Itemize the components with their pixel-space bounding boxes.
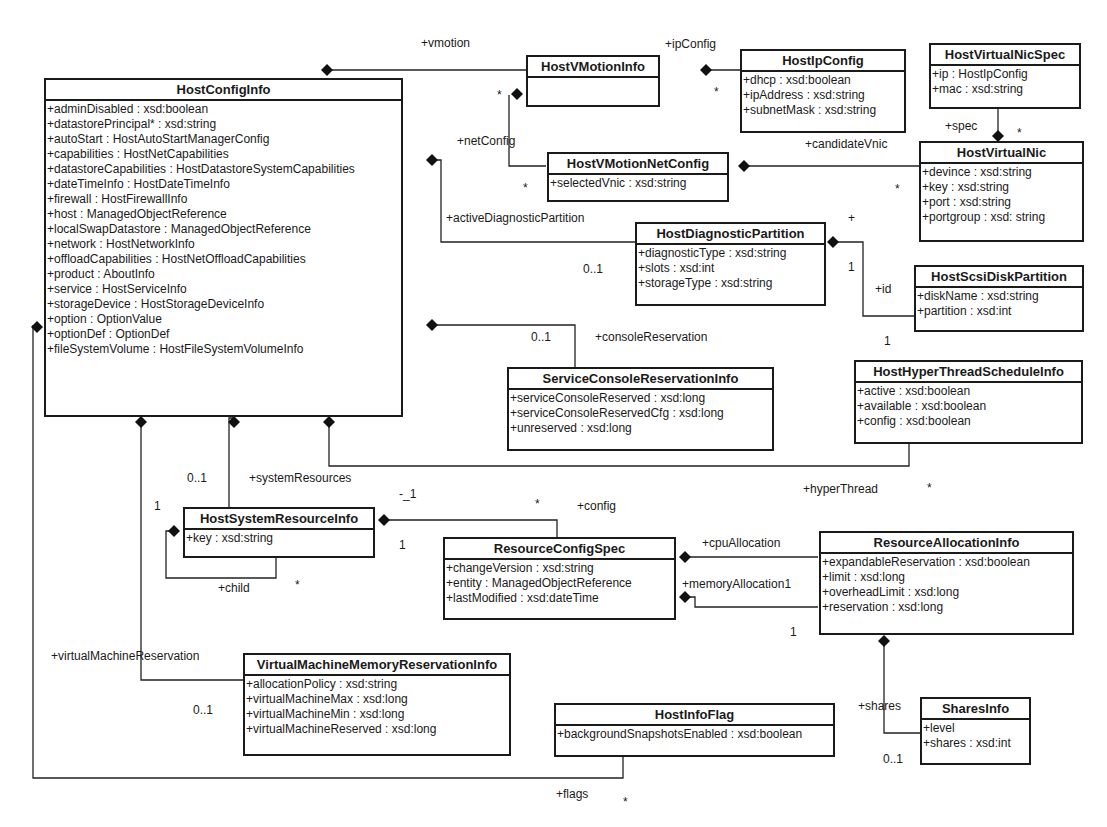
attribute: +dateTimeInfo : HostDateTimeInfo	[47, 177, 399, 192]
attribute: +diagnosticType : xsd:string	[638, 246, 822, 261]
attribute: +key : xsd:string	[186, 531, 371, 546]
class-service-console-reservation-info: ServiceConsoleReservationInfo +serviceCo…	[507, 367, 774, 451]
attribute: +option : OptionValue	[47, 312, 399, 327]
multiplicity-label: *	[895, 182, 900, 196]
attribute: +limit : xsd:long	[822, 570, 1070, 585]
attribute: +backgroundSnapshotsEnabled : xsd:boolea…	[557, 727, 831, 742]
multiplicity-label: *	[535, 497, 540, 511]
class-host-system-resource-info: HostSystemResourceInfo +key : xsd:string	[183, 507, 375, 558]
attribute-list: +level +shares : xsd:int	[922, 720, 1029, 752]
attribute: +virtualMachineReserved : xsd:long	[246, 722, 507, 737]
attribute-list: +active : xsd:boolean +available : xsd:b…	[856, 383, 1081, 430]
multiplicity-label: *	[927, 481, 932, 495]
multiplicity-label: *	[497, 88, 502, 102]
attribute: +reservation : xsd:long	[822, 600, 1070, 615]
attribute: +datastoreCapabilities : HostDatastoreSy…	[47, 162, 399, 177]
attribute: +storageDevice : HostStorageDeviceInfo	[47, 297, 399, 312]
attribute: +available : xsd:boolean	[857, 399, 1079, 414]
multiplicity-label: 0..1	[193, 703, 213, 717]
class-resource-allocation-info: ResourceAllocationInfo +expandableReserv…	[819, 531, 1074, 635]
class-name: HostScsiDiskPartition	[916, 267, 1082, 288]
attribute: +service : HostServiceInfo	[47, 282, 399, 297]
multiplicity-label: 1	[790, 625, 797, 639]
role-label-virtual-machine-reservation: +virtualMachineReservation	[51, 649, 199, 663]
attribute-list: +serviceConsoleReserved : xsd:long +serv…	[509, 390, 772, 437]
multiplicity-label: 1	[884, 334, 891, 348]
attribute: +datastorePrincipal* : xsd:string	[47, 117, 399, 132]
attribute: +mac : xsd:string	[932, 82, 1077, 97]
class-host-virtual-nic: HostVirtualNic +devince : xsd:string +ke…	[919, 141, 1084, 242]
class-host-config-info: HostConfigInfo +adminDisabled : xsd:bool…	[44, 78, 403, 417]
attribute: +devince : xsd:string	[922, 165, 1080, 180]
attribute: +allocationPolicy : xsd:string	[246, 677, 507, 692]
role-label-console-reservation: +consoleReservation	[595, 330, 707, 344]
attribute: +level	[923, 721, 1027, 736]
role-label-memory-allocation: +memoryAllocation1	[682, 577, 791, 591]
attribute: +expandableReservation : xsd:boolean	[822, 555, 1070, 570]
multiplicity-label: 1	[154, 499, 161, 513]
class-name: HostSystemResourceInfo	[185, 509, 373, 530]
class-host-diagnostic-partition: HostDiagnosticPartition +diagnosticType …	[635, 222, 826, 306]
role-label-vmotion: +vmotion	[421, 36, 470, 50]
attribute-list: +selectedVnic : xsd:string	[549, 175, 727, 192]
attribute: +adminDisabled : xsd:boolean	[47, 102, 399, 117]
attribute: +dhcp : xsd:boolean	[743, 73, 902, 88]
attribute: +config : xsd:boolean	[857, 414, 1079, 429]
attribute: +partition : xsd:int	[917, 304, 1080, 319]
multiplicity-label: 0..1	[583, 262, 603, 276]
class-name: HostConfigInfo	[46, 80, 401, 101]
class-host-info-flag: HostInfoFlag +backgroundSnapshotsEnabled…	[554, 703, 835, 757]
attribute: +fileSystemVolume : HostFileSystemVolume…	[47, 342, 399, 357]
class-name: ResourceAllocationInfo	[821, 533, 1072, 554]
multiplicity-label: 0..1	[883, 752, 903, 766]
attribute-list: +backgroundSnapshotsEnabled : xsd:boolea…	[556, 726, 833, 743]
class-name: HostVMotionInfo	[528, 57, 658, 78]
attribute-list: +dhcp : xsd:boolean +ipAddress : xsd:str…	[742, 72, 904, 119]
attribute: +serviceConsoleReserved : xsd:long	[510, 391, 770, 406]
role-label-cpu-allocation: +cpuAllocation	[702, 536, 780, 550]
attribute: +shares : xsd:int	[923, 736, 1027, 751]
role-label-spec: +spec	[945, 119, 977, 133]
role-label-active-diagnostic-partition: +activeDiagnosticPartition	[446, 211, 584, 225]
attribute: +optionDef : OptionDef	[47, 327, 399, 342]
attribute-list: +expandableReservation : xsd:boolean +li…	[821, 554, 1072, 616]
attribute: +ip : HostIpConfig	[932, 67, 1077, 82]
attribute: +slots : xsd:int	[638, 261, 822, 276]
attribute: +virtualMachineMax : xsd:long	[246, 692, 507, 707]
attribute-list	[528, 78, 658, 100]
attribute: +changeVersion : xsd:string	[446, 561, 672, 576]
attribute-list: +diagnosticType : xsd:string +slots : xs…	[637, 245, 824, 292]
attribute: +storageType : xsd:string	[638, 276, 822, 291]
multiplicity-label: -_1	[399, 487, 416, 501]
attribute-list: +adminDisabled : xsd:boolean +datastoreP…	[46, 101, 401, 358]
class-name: HostIpConfig	[742, 51, 904, 72]
class-host-vmotion-info: HostVMotionInfo	[526, 55, 660, 107]
attribute: +selectedVnic : xsd:string	[550, 176, 725, 191]
attribute: +entity : ManagedObjectReference	[446, 576, 672, 591]
role-label-flags: +flags	[556, 787, 588, 801]
multiplicity-label: *	[623, 795, 628, 809]
attribute: +subnetMask : xsd:string	[743, 103, 902, 118]
multiplicity-label: *	[714, 85, 719, 99]
class-name: HostVirtualNic	[921, 143, 1082, 164]
role-label-plus: +	[848, 211, 855, 225]
attribute-list: +changeVersion : xsd:string +entity : Ma…	[445, 560, 674, 607]
role-label-child: +child	[218, 581, 250, 595]
role-label-config: +config	[577, 499, 616, 513]
class-name: HostHyperThreadScheduleInfo	[856, 362, 1081, 383]
attribute: +autoStart : HostAutoStartManagerConfig	[47, 132, 399, 147]
role-label-system-resources: +systemResources	[249, 471, 351, 485]
attribute: +diskName : xsd:string	[917, 289, 1080, 304]
attribute: +ipAddress : xsd:string	[743, 88, 902, 103]
attribute-list: +diskName : xsd:string +partition : xsd:…	[916, 288, 1082, 320]
class-host-virtual-nic-spec: HostVirtualNicSpec +ip : HostIpConfig +m…	[929, 43, 1081, 109]
role-label-net-config: +netConfig	[457, 134, 515, 148]
role-label-shares: +shares	[858, 699, 901, 713]
attribute: +overheadLimit : xsd:long	[822, 585, 1070, 600]
attribute: +offloadCapabilities : HostNetOffloadCap…	[47, 252, 399, 267]
attribute: +network : HostNetworkInfo	[47, 237, 399, 252]
class-name: VirtualMachineMemoryReservationInfo	[245, 655, 509, 676]
class-host-vmotion-net-config: HostVMotionNetConfig +selectedVnic : xsd…	[547, 152, 729, 202]
attribute: +capabilities : HostNetCapabilities	[47, 147, 399, 162]
attribute: +portgroup : xsd: string	[922, 210, 1080, 225]
